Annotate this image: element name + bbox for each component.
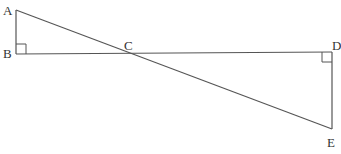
label-a: A bbox=[3, 3, 13, 18]
label-c: C bbox=[124, 38, 133, 53]
right-angle-marker-b bbox=[16, 44, 26, 54]
segment-ae bbox=[16, 10, 332, 129]
label-e: E bbox=[327, 135, 335, 150]
label-d: D bbox=[332, 38, 341, 53]
geometry-diagram: A B C D E bbox=[0, 0, 341, 154]
label-b: B bbox=[3, 46, 12, 61]
segment-bd bbox=[16, 52, 332, 54]
right-angle-marker-d bbox=[322, 52, 332, 62]
